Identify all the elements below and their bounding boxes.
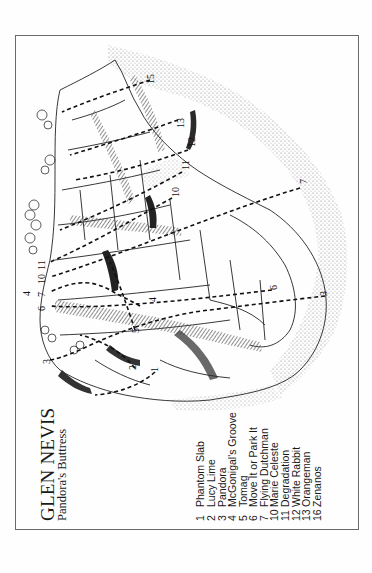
route-label: 11	[37, 260, 47, 270]
route-label: 7	[37, 292, 47, 297]
route-label: 6	[37, 306, 47, 311]
topo-page: 15 13 12 11 10 7 11 10 7 4 6 6 3 3 5 4 2…	[0, 0, 372, 573]
route-label: 2	[128, 365, 138, 370]
route-label: 5	[131, 328, 141, 333]
route-label: 1	[150, 367, 160, 372]
route-label: 7	[299, 179, 309, 184]
route-label: 3	[319, 291, 329, 296]
route-label: 12	[187, 137, 197, 147]
route-label: 10	[37, 274, 47, 284]
route-label: 3	[42, 359, 52, 364]
legend-item: 16Zenanos	[312, 466, 323, 521]
route-label: 4	[148, 297, 158, 302]
route-label: 4	[22, 291, 32, 296]
shaded-bands	[55, 75, 262, 394]
route-label: 13	[176, 118, 186, 128]
route-label: 6	[269, 285, 279, 290]
route-label: 10	[171, 187, 181, 197]
route-label: 15	[146, 74, 156, 84]
trees	[25, 110, 84, 354]
route-lines	[48, 80, 325, 395]
route-label: 11	[181, 160, 191, 170]
crag-subtitle: Pandora's Buttress	[56, 429, 69, 521]
rock-outlines	[40, 60, 326, 401]
